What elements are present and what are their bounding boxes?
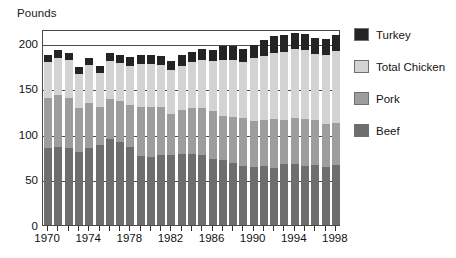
bar-segment-beef [147, 157, 155, 225]
bar-segment-turkey [250, 45, 258, 58]
bar-segment-pork [54, 95, 62, 147]
bar-segment-beef [250, 167, 258, 225]
x-axis-tick-label: 1998 [322, 232, 348, 244]
x-axis-tick [129, 226, 130, 231]
bar-1988 [229, 46, 237, 225]
bar-segment-total-chicken [54, 58, 62, 94]
bar-segment-total-chicken [178, 66, 186, 111]
x-axis-tick [150, 226, 151, 231]
bar-segment-turkey [188, 52, 196, 62]
legend-swatch-icon [354, 60, 369, 73]
x-axis-tick [88, 226, 89, 231]
y-axis-tick-label: 150 [4, 83, 38, 95]
bar-1996 [311, 38, 319, 225]
legend-item-pork[interactable]: Pork [354, 92, 400, 105]
y-axis-tick-label: 200 [4, 38, 38, 50]
bar-segment-beef [178, 154, 186, 225]
x-axis-tick-label: 1982 [158, 232, 184, 244]
bar-segment-turkey [54, 50, 62, 58]
x-axis-tick [68, 226, 69, 231]
x-axis-tick [99, 226, 100, 231]
bar-segment-pork [188, 108, 196, 154]
x-axis-tick [263, 226, 264, 231]
bar-1989 [239, 49, 247, 225]
legend-item-total-chicken[interactable]: Total Chicken [354, 60, 445, 73]
bar-segment-beef [65, 148, 73, 225]
x-axis-tick [109, 226, 110, 231]
bar-segment-total-chicken [157, 65, 165, 106]
bar-segment-pork [75, 108, 83, 152]
bar-segment-total-chicken [332, 51, 340, 123]
bar-segment-pork [198, 108, 206, 154]
chart-container: Pounds 050100150200 19701974197819821986… [0, 0, 456, 258]
bar-1979 [137, 55, 145, 225]
x-axis-tick-label: 1990 [240, 232, 266, 244]
x-axis-tick-label: 1986 [199, 232, 225, 244]
bar-segment-turkey [198, 49, 206, 60]
x-axis-tick-labels: 19701974197819821986199019941998 [0, 232, 456, 250]
x-axis-tick [294, 226, 295, 231]
x-axis-tick [119, 226, 120, 231]
bar-1990 [250, 45, 258, 225]
legend-item-beef[interactable]: Beef [354, 124, 400, 137]
bar-segment-beef [198, 155, 206, 225]
bar-segment-beef [96, 145, 104, 225]
bar-1997 [322, 39, 330, 225]
bar-segment-total-chicken [147, 64, 155, 108]
x-axis-tick [304, 226, 305, 231]
bar-1971 [54, 50, 62, 225]
y-axis-tick-label: 100 [4, 129, 38, 141]
bar-segment-beef [311, 165, 319, 225]
bar-segment-pork [260, 120, 268, 166]
x-axis-tick [253, 226, 254, 231]
bar-segment-pork [137, 107, 145, 155]
bar-segment-pork [280, 120, 288, 164]
bar-segment-pork [167, 114, 175, 155]
bar-segment-beef [167, 155, 175, 225]
x-axis-tick [325, 226, 326, 231]
bar-segment-total-chicken [229, 60, 237, 117]
bar-segment-beef [126, 147, 134, 225]
bar-1984 [188, 52, 196, 225]
bar-segment-turkey [301, 34, 309, 50]
bar-segment-total-chicken [270, 53, 278, 120]
bar-segment-total-chicken [311, 54, 319, 121]
bar-segment-total-chicken [209, 61, 217, 111]
legend-label: Total Chicken [376, 61, 445, 73]
bar-segment-beef [229, 163, 237, 225]
legend-label: Beef [376, 125, 400, 137]
bar-segment-pork [291, 118, 299, 164]
bar-segment-total-chicken [85, 65, 93, 103]
x-axis-tick [181, 226, 182, 231]
bar-segment-beef [270, 168, 278, 225]
bar-segment-pork [157, 107, 165, 155]
bar-segment-total-chicken [96, 73, 104, 107]
bar-segment-total-chicken [116, 63, 124, 101]
bar-segment-turkey [147, 55, 155, 64]
x-axis-tick-label: 1978 [117, 232, 143, 244]
bar-segment-total-chicken [198, 60, 206, 108]
bar-segment-total-chicken [44, 62, 52, 98]
bar-segment-pork [301, 119, 309, 165]
bar-1992 [270, 36, 278, 225]
x-axis-tick [160, 226, 161, 231]
bar-1980 [147, 55, 155, 225]
legend-item-turkey[interactable]: Turkey [354, 28, 411, 41]
bar-segment-beef [188, 154, 196, 225]
bar-segment-beef [157, 155, 165, 225]
bar-segment-pork [178, 110, 186, 154]
bar-segment-beef [54, 147, 62, 225]
x-axis-tick-label: 1974 [75, 232, 101, 244]
bar-segment-beef [75, 152, 83, 225]
legend-swatch-icon [354, 28, 369, 41]
legend-swatch-icon [354, 92, 369, 105]
bar-segment-turkey [106, 53, 114, 61]
bar-segment-turkey [44, 55, 52, 62]
bar-segment-turkey [167, 61, 175, 70]
bar-segment-turkey [65, 53, 73, 60]
bar-1985 [198, 49, 206, 225]
x-axis-tick [212, 226, 213, 231]
x-axis-tick [283, 226, 284, 231]
bar-segment-pork [209, 111, 217, 159]
bar-1976 [106, 53, 114, 225]
